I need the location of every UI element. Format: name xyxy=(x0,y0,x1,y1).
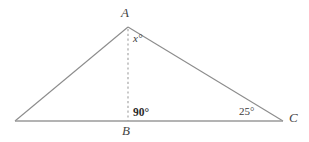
angle-label-x: x° xyxy=(133,33,142,44)
triangle-diagram-canvas xyxy=(0,0,309,142)
vertex-label-a: A xyxy=(121,6,129,19)
triangle-left-side xyxy=(15,27,128,121)
angle-label-25: 25° xyxy=(239,106,254,117)
triangle-right-side xyxy=(128,27,283,121)
vertex-label-b: B xyxy=(122,124,130,137)
vertex-label-c: C xyxy=(289,111,298,124)
geometry-figure: A B C x° 90° 25° xyxy=(0,0,309,142)
angle-label-90: 90° xyxy=(133,107,149,119)
